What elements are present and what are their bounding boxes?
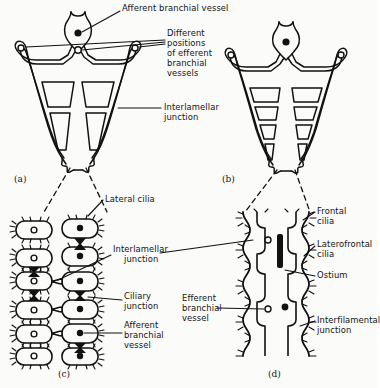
panel-a-efferent-vessel-marker-left	[18, 45, 24, 51]
panel-c-afferent-5	[77, 330, 83, 336]
panel-c-afferent-6	[77, 353, 83, 359]
label-interfilamental-junction-line2: junction	[317, 326, 351, 336]
label-interlamellar-junction-mid-line2: junction	[124, 255, 158, 265]
label-afferent-c-line3: vessel	[124, 341, 151, 351]
panel-c-efferent-4	[31, 307, 37, 313]
panel-c-efferent-3	[31, 278, 37, 284]
label-laterofrontal-cilia-line2: cilia	[317, 250, 334, 260]
panel-a-efferent-vessel-marker-center	[75, 47, 81, 53]
panel-b-afferent-vessel-marker	[282, 38, 289, 45]
panel-b-efferent-vessel-marker-left	[228, 52, 234, 58]
panel-b-efferent-vessel-marker-right	[338, 52, 344, 58]
panel-d-efferent-1	[265, 237, 271, 243]
label-frontal-cilia-line2: cilia	[317, 217, 334, 227]
label-ciliary-junction-line2: junction	[124, 302, 158, 312]
panel-c-afferent-1	[77, 225, 83, 231]
panel-label-a: (a)	[14, 174, 26, 184]
panel-d-ostium-bar	[277, 234, 283, 268]
panel-c-afferent-4	[77, 306, 83, 312]
panel-c-efferent-6	[31, 353, 37, 359]
panel-c-afferent-2	[77, 253, 83, 259]
panel-label-b: (b)	[222, 174, 235, 184]
panel-label-c: (c)	[58, 369, 70, 379]
panel-c-afferent-3	[77, 278, 83, 284]
label-different-positions-line5: vessels	[167, 69, 198, 79]
panel-c-efferent-2	[31, 255, 37, 261]
panel-d-efferent-2	[265, 306, 271, 312]
label-interlamellar-junction-top-line2: junction	[164, 113, 198, 123]
panel-a-afferent-vessel-marker	[74, 29, 81, 36]
panel-a-efferent-vessel-marker-right	[132, 45, 138, 51]
panel-c-efferent-5	[31, 331, 37, 337]
label-lateral-cilia: Lateral cilia	[105, 195, 155, 205]
panel-label-d: (d)	[268, 369, 281, 379]
panel-c-efferent-1	[31, 227, 37, 233]
label-afferent-branchial-vessel-top: Afferent branchial vessel	[122, 4, 229, 14]
panel-d-afferent-1	[282, 304, 289, 311]
label-efferent-d-line3: vessel	[182, 314, 209, 324]
label-ostium: Ostium	[317, 271, 348, 281]
